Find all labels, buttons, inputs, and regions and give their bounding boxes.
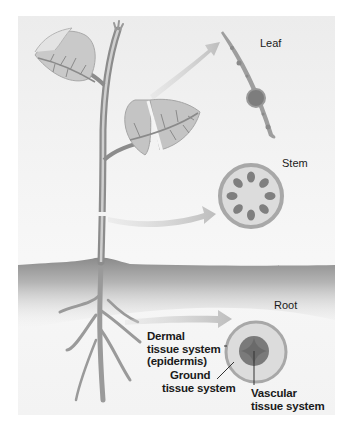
leaf-middle	[125, 99, 200, 155]
ground-tissue-label: Ground tissue system	[162, 369, 235, 394]
vascular-line-1: Vascular	[251, 387, 324, 400]
vascular-line-2: tissue system	[251, 400, 324, 413]
vascular-tissue-label: Vascular tissue system	[251, 387, 324, 412]
ground-line-2: tissue system	[162, 382, 235, 395]
leaf-arrow	[150, 42, 220, 100]
stem-label: Stem	[282, 157, 308, 169]
dermal-line-3: (epidermis)	[147, 355, 220, 368]
dermal-tissue-label: Dermal tissue system (epidermis)	[147, 330, 220, 368]
dermal-line-1: Dermal	[147, 330, 220, 343]
ground-line-1: Ground	[162, 369, 235, 382]
stem-cross-section	[220, 165, 282, 227]
leaf-top-left	[35, 28, 95, 82]
stem-cut	[97, 212, 107, 216]
root-label: Root	[274, 299, 297, 311]
dermal-line-2: tissue system	[147, 343, 220, 356]
stem-arrow	[108, 206, 216, 227]
root-arrow	[125, 310, 232, 328]
leaf-label: Leaf	[260, 37, 281, 49]
